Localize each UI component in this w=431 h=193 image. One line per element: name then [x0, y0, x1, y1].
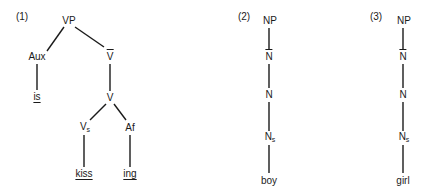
node-n-s-3: Ns — [399, 131, 410, 146]
node-n-bar-2: N — [265, 51, 272, 63]
tree-1-number: (1) — [16, 11, 28, 23]
word-kiss: kiss — [75, 168, 92, 180]
word-boy: boy — [261, 175, 277, 187]
edge-v-vs — [90, 104, 106, 120]
node-aux: Aux — [28, 51, 45, 63]
tree-2-number: (2) — [238, 11, 250, 23]
tree-edges — [0, 0, 431, 193]
word-girl: girl — [396, 175, 409, 187]
edge-vp-vbar — [75, 27, 104, 47]
tree-3-number: (3) — [370, 11, 382, 23]
node-n-3: N — [399, 89, 406, 101]
edge-v-af — [114, 104, 126, 120]
edge-vp-aux — [47, 27, 64, 51]
node-n-2: N — [265, 89, 272, 101]
node-np-2: NP — [263, 15, 277, 27]
node-np-3: NP — [397, 15, 411, 27]
node-af: Af — [125, 122, 134, 134]
node-vp: VP — [62, 15, 75, 27]
node-v-s: Vs — [80, 121, 90, 136]
node-v-bar: V — [107, 51, 114, 63]
node-v: V — [107, 92, 114, 104]
node-n-bar-3: N — [399, 51, 406, 63]
word-ing: ing — [123, 168, 136, 180]
node-n-s-2: Ns — [265, 131, 276, 146]
word-is: is — [33, 91, 40, 103]
